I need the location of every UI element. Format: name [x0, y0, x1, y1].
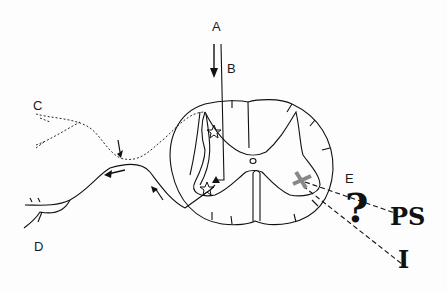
question-mark: ? [345, 188, 368, 228]
lesion-cross [293, 172, 311, 188]
label-a: A [212, 20, 221, 33]
star-lower [200, 182, 214, 195]
label-i: I [398, 248, 409, 272]
label-d: D [34, 240, 43, 253]
label-c: C [33, 99, 42, 112]
label-ps: PS [390, 205, 425, 229]
efferent-fiber [25, 164, 185, 208]
spinal-cord-drawing [0, 0, 447, 291]
diagram-canvas: A B C D E ? PS I [0, 0, 447, 291]
label-b: B [227, 62, 236, 75]
